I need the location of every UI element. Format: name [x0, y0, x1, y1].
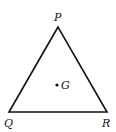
point-label-g: G: [61, 79, 70, 92]
triangle-diagram: P Q R G: [0, 0, 116, 132]
centroid-point-g: [55, 83, 58, 86]
vertex-label-p: P: [53, 11, 62, 24]
vertex-label-r: R: [101, 117, 110, 130]
triangle-pqr: [9, 27, 107, 112]
vertex-label-q: Q: [4, 117, 13, 130]
